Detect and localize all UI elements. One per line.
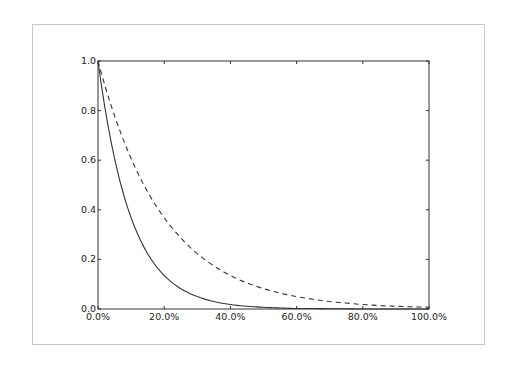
y-tick-label: 0.4 (81, 204, 96, 215)
series-layer (98, 61, 429, 309)
y-tick-label: 0.8 (81, 105, 96, 116)
x-tick-label: 40.0% (215, 311, 245, 322)
y-tick-label: 0.6 (81, 154, 96, 165)
series-dashed-line (98, 61, 429, 307)
x-tick-label: 100.0% (411, 311, 447, 322)
x-tick-label: 60.0% (282, 311, 312, 322)
y-axis: 0.00.20.40.60.81.0 (81, 55, 429, 314)
y-tick-label: 0.0 (81, 303, 96, 314)
x-axis: 0.0%20.0%40.0%60.0%80.0%100.0% (86, 61, 447, 322)
y-tick-label: 1.0 (81, 55, 96, 66)
series-solid-line (98, 61, 429, 309)
x-tick-label: 20.0% (149, 311, 179, 322)
line-chart: 0.0%20.0%40.0%60.0%80.0%100.0% 0.00.20.4… (0, 0, 512, 366)
x-tick-label: 80.0% (348, 311, 378, 322)
y-tick-label: 0.2 (81, 253, 96, 264)
plot-area (98, 61, 429, 309)
